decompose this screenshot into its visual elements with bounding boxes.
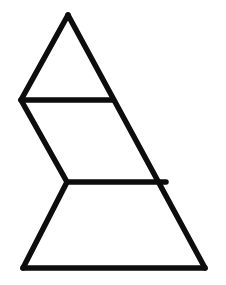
region-lower-trapezoid (23, 182, 205, 268)
region-upper-triangle (21, 15, 113, 100)
geometric-figure-svg (0, 0, 226, 285)
figure-canvas (0, 0, 226, 285)
